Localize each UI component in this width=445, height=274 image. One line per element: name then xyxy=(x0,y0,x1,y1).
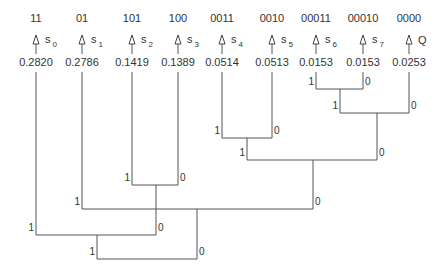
probability-label: 0.2820 xyxy=(19,56,53,68)
bit-label-1: 1 xyxy=(332,100,338,111)
arrow-up-icon xyxy=(79,35,85,44)
codeword-label: 101 xyxy=(123,12,141,24)
merge-node: 10 xyxy=(28,72,164,235)
huffman-tree-diagram: 11s00.282001s10.2786101s20.1419100s30.13… xyxy=(0,0,445,274)
bit-label-0: 0 xyxy=(315,196,321,207)
probability-label: 0.2786 xyxy=(65,56,99,68)
probability-label: 0.0514 xyxy=(205,56,239,68)
arrow-up-icon xyxy=(406,35,412,44)
symbol-label: s4 xyxy=(231,33,244,49)
merge-node: 10 xyxy=(124,72,186,185)
symbol-label: s0 xyxy=(45,33,58,49)
bit-label-0: 0 xyxy=(199,246,205,257)
symbol-label: s2 xyxy=(141,33,154,49)
bit-label-0: 0 xyxy=(180,172,186,183)
symbol-label: s5 xyxy=(281,33,294,49)
codeword-label: 00011 xyxy=(301,12,331,24)
leaf-node: 0010s50.0513 xyxy=(255,12,293,68)
arrow-up-icon xyxy=(219,35,225,44)
bit-label-0: 0 xyxy=(365,76,371,87)
merge-node: 10 xyxy=(89,209,205,259)
arrow-up-icon xyxy=(33,35,39,44)
leaf-node: 00011s60.0153 xyxy=(299,12,337,68)
bit-label-1: 1 xyxy=(239,147,245,158)
leaf-node: 0000Q0.0253 xyxy=(392,12,427,68)
symbol-label: s7 xyxy=(372,33,385,49)
merge-node: 10 xyxy=(74,72,321,209)
arrow-up-icon xyxy=(360,35,366,44)
merge-node: 10 xyxy=(239,113,385,160)
merge-nodes: 1010101010101010 xyxy=(28,72,417,259)
probability-label: 0.0513 xyxy=(255,56,289,68)
probability-label: 0.0153 xyxy=(299,56,333,68)
bit-label-0: 0 xyxy=(379,147,385,158)
symbol-label: s6 xyxy=(325,33,338,49)
probability-label: 0.0153 xyxy=(346,56,380,68)
leaf-node: 01s10.2786 xyxy=(65,12,103,68)
codeword-label: 100 xyxy=(169,12,187,24)
symbol-label: Q xyxy=(418,34,427,46)
bit-label-0: 0 xyxy=(411,100,417,111)
codeword-label: 01 xyxy=(76,12,88,24)
arrow-up-icon xyxy=(175,35,181,44)
merge-node: 10 xyxy=(308,72,371,89)
leaf-node: 0011s40.0514 xyxy=(205,12,243,68)
leaf-node: 100s30.1389 xyxy=(161,12,199,68)
bit-label-1: 1 xyxy=(308,76,314,87)
symbol-label: s3 xyxy=(187,33,200,49)
bit-label-1: 1 xyxy=(28,222,34,233)
codeword-label: 0000 xyxy=(397,12,421,24)
probability-label: 0.1419 xyxy=(115,56,149,68)
arrow-up-icon xyxy=(129,35,135,44)
codeword-label: 11 xyxy=(30,12,41,24)
bit-label-1: 1 xyxy=(214,125,220,136)
merge-node: 10 xyxy=(332,72,417,113)
leaf-node: 101s20.1419 xyxy=(115,12,153,68)
bit-label-1: 1 xyxy=(124,172,130,183)
codeword-label: 00010 xyxy=(348,12,379,24)
arrow-up-icon xyxy=(269,35,275,44)
probability-label: 0.0253 xyxy=(392,56,426,68)
merge-node: 10 xyxy=(214,72,280,138)
bit-label-1: 1 xyxy=(74,196,80,207)
arrow-up-icon xyxy=(313,35,319,44)
codeword-label: 0010 xyxy=(260,12,284,24)
codeword-label: 0011 xyxy=(210,12,234,24)
symbol-label: s1 xyxy=(91,33,104,49)
leaf-node: 00010s70.0153 xyxy=(346,12,384,68)
probability-label: 0.1389 xyxy=(161,56,195,68)
bit-label-1: 1 xyxy=(89,246,95,257)
bit-label-0: 0 xyxy=(158,222,164,233)
bit-label-0: 0 xyxy=(274,125,280,136)
leaf-node: 11s00.2820 xyxy=(19,12,57,68)
leaf-nodes: 11s00.282001s10.2786101s20.1419100s30.13… xyxy=(19,12,427,68)
